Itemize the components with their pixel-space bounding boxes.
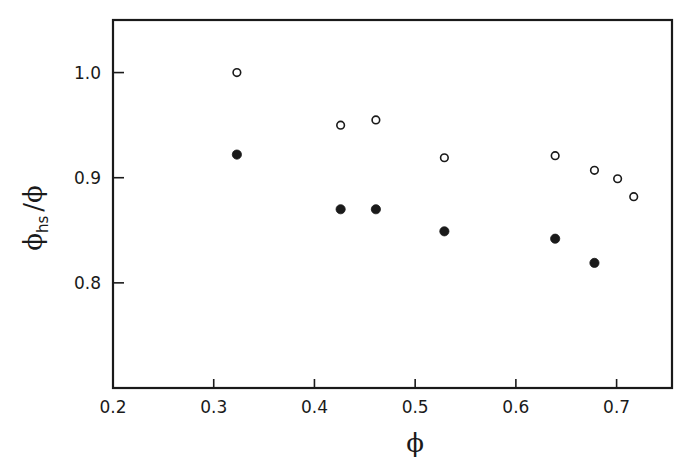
open-circle-point bbox=[372, 116, 380, 124]
x-axis-label: ϕ bbox=[406, 428, 424, 458]
y-tick-label: 0.9 bbox=[74, 168, 101, 188]
filled-circle-point bbox=[371, 205, 380, 214]
filled-circle-point bbox=[551, 234, 560, 243]
open-circle-point bbox=[337, 121, 345, 129]
open-circle-point bbox=[233, 69, 241, 77]
x-tick-label: 0.3 bbox=[200, 397, 227, 417]
x-tick-label: 0.2 bbox=[99, 397, 126, 417]
x-tick-label: 0.6 bbox=[502, 397, 529, 417]
data-points bbox=[232, 69, 637, 268]
y-axis-ticks: 0.80.91.0 bbox=[74, 63, 124, 293]
filled-circle-point bbox=[336, 205, 345, 214]
y-axis-label-main: ϕ bbox=[18, 233, 48, 251]
open-circle-point bbox=[630, 193, 638, 201]
y-axis-label-denominator: /ϕ bbox=[18, 185, 48, 211]
open-circle-point bbox=[591, 167, 599, 175]
x-axis-ticks: 0.20.30.40.50.60.7 bbox=[99, 379, 630, 417]
x-tick-label: 0.7 bbox=[603, 397, 630, 417]
svg-text:ϕhs/ϕ: ϕhs/ϕ bbox=[18, 185, 52, 251]
x-tick-label: 0.5 bbox=[402, 397, 429, 417]
open-circle-point bbox=[551, 152, 559, 160]
filled-circle-point bbox=[232, 150, 241, 159]
open-circle-point bbox=[441, 154, 449, 162]
y-axis-label-sub: hs bbox=[34, 216, 52, 234]
plot-frame bbox=[113, 20, 672, 388]
y-axis-label: ϕhs/ϕ bbox=[18, 185, 52, 251]
scatter-chart: 0.20.30.40.50.60.7 0.80.91.0 ϕ ϕhs/ϕ bbox=[0, 0, 693, 476]
filled-circle-point bbox=[590, 258, 599, 267]
y-tick-label: 0.8 bbox=[74, 273, 101, 293]
y-tick-label: 1.0 bbox=[74, 63, 101, 83]
filled-circle-point bbox=[440, 227, 449, 236]
x-tick-label: 0.4 bbox=[301, 397, 328, 417]
open-circle-point bbox=[614, 175, 622, 183]
plot-border bbox=[113, 20, 672, 388]
